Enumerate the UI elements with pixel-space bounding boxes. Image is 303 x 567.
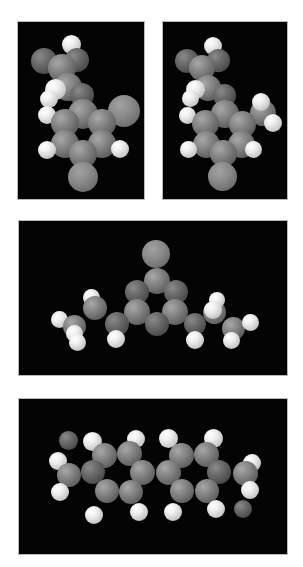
atom [145, 312, 169, 336]
atom [207, 500, 225, 518]
atom [241, 481, 259, 499]
molecule-panel-top-right [162, 21, 288, 200]
atom [223, 332, 240, 349]
atom [59, 431, 78, 450]
atom [85, 506, 103, 524]
atom [119, 480, 143, 504]
atom [245, 141, 262, 158]
atom [164, 503, 182, 521]
atom [95, 479, 119, 503]
atom [252, 93, 270, 111]
atom [130, 503, 148, 521]
atom [170, 479, 194, 503]
atom [38, 141, 56, 159]
molecule-panel-bottom [18, 398, 288, 555]
atom [242, 314, 259, 331]
atom [51, 483, 69, 501]
atom [186, 331, 204, 349]
atom [182, 90, 199, 107]
molecule-panel-top-left [17, 21, 145, 200]
atom [208, 162, 237, 191]
atom [234, 500, 252, 518]
atom [107, 330, 125, 348]
atom [83, 296, 107, 320]
atom [69, 334, 86, 351]
molecule-panel-middle [18, 220, 288, 376]
atom [111, 140, 129, 158]
atom [180, 141, 197, 158]
atom [264, 114, 282, 132]
atom [68, 162, 98, 192]
atom [204, 301, 222, 319]
atom [142, 240, 170, 268]
